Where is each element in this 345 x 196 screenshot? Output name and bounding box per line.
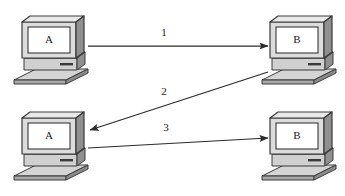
node-label-b-bottom: B (293, 129, 300, 141)
message-3-line (88, 138, 268, 148)
message-1-label: 1 (161, 26, 167, 38)
message-arrow-3: 3 (88, 121, 268, 148)
message-3-label: 3 (163, 121, 169, 133)
diagram-canvas: A B A B 1 2 3 (0, 0, 345, 196)
node-label-b-top: B (293, 33, 300, 45)
computer-icon (262, 112, 336, 180)
node-computer-a-bottom[interactable]: A (14, 112, 88, 180)
message-arrow-1: 1 (88, 26, 268, 46)
message-arrow-2: 2 (90, 72, 268, 130)
message-2-label: 2 (161, 85, 167, 97)
node-label-a-top: A (45, 33, 53, 45)
computer-icon (14, 16, 88, 84)
node-computer-b-top[interactable]: B (262, 16, 336, 84)
computer-icon (14, 112, 88, 180)
computer-icon (262, 16, 336, 84)
node-label-a-bottom: A (45, 129, 53, 141)
node-computer-b-bottom[interactable]: B (262, 112, 336, 180)
network-message-diagram: A B A B 1 2 3 (0, 0, 345, 196)
node-computer-a-top[interactable]: A (14, 16, 88, 84)
message-2-line (90, 72, 268, 130)
